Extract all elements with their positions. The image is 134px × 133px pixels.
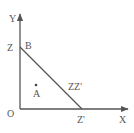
b-label: B bbox=[25, 40, 32, 51]
coordinate-diagram: Y Z B A ZZ' O Z' X bbox=[0, 0, 134, 133]
z-prime-label: Z' bbox=[77, 114, 85, 125]
segment-zz-prime bbox=[20, 47, 82, 109]
origin-label: O bbox=[7, 108, 14, 119]
a-label: A bbox=[33, 88, 41, 99]
segment-label: ZZ' bbox=[68, 81, 82, 92]
x-axis-label: X bbox=[119, 114, 127, 125]
z-label: Z bbox=[7, 42, 13, 53]
point-a-dot bbox=[35, 84, 38, 87]
y-axis-label: Y bbox=[9, 13, 16, 24]
